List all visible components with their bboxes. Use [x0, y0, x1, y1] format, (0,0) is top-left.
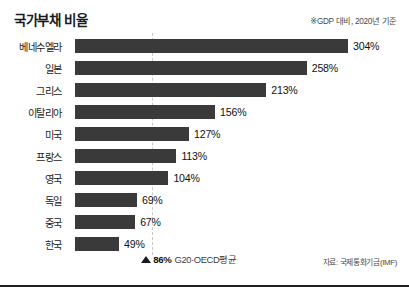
page-title: 국가부채 비율: [14, 9, 88, 29]
bar: [75, 83, 266, 97]
bar-value-label: 156%: [220, 106, 246, 118]
bottom-divider: [0, 285, 409, 287]
bar: [75, 193, 137, 207]
source-note: 자료: 국제통화기금(IMF): [323, 256, 397, 267]
bar-row: 중국67%: [0, 211, 409, 233]
bar-value-label: 104%: [173, 172, 199, 184]
bar-row: 이탈리아156%: [0, 101, 409, 123]
bar: [75, 149, 176, 163]
bar-row: 베네수엘라304%: [0, 35, 409, 57]
bar-category-label: 베네수엘라: [0, 39, 62, 54]
bar-value-label: 49%: [124, 238, 145, 250]
bar-value-label: 258%: [312, 62, 338, 74]
bar-row: 독일69%: [0, 189, 409, 211]
bar-category-label: 일본: [0, 61, 62, 76]
bar-category-label: 프랑스: [0, 149, 62, 164]
bar-category-label: 독일: [0, 193, 62, 208]
bar: [75, 127, 189, 141]
average-marker: 86% G20·OECD평균: [141, 251, 236, 267]
chart-plot-area: 베네수엘라304%일본258%그리스213%이탈리아156%미국127%프랑스1…: [0, 33, 409, 259]
bar-category-label: 이탈리아: [0, 105, 62, 120]
bar-value-label: 304%: [353, 40, 379, 52]
bar-value-label: 127%: [194, 128, 220, 140]
chart-page: 국가부채 비율 ※GDP 대비, 2020년 기준 베네수엘라304%일본258…: [0, 0, 409, 297]
average-value: 86%: [153, 254, 171, 265]
bar-row: 영국104%: [0, 167, 409, 189]
bar-category-label: 그리스: [0, 83, 62, 98]
bar-value-label: 213%: [271, 84, 297, 96]
bar: [75, 105, 215, 119]
bar: [75, 171, 168, 185]
bar: [75, 39, 348, 53]
bar: [75, 215, 135, 229]
bar-category-label: 영국: [0, 171, 62, 186]
bar-category-label: 중국: [0, 215, 62, 230]
bar-category-label: 한국: [0, 237, 62, 252]
average-label: G20·OECD평균: [175, 252, 237, 266]
bar-value-label: 67%: [140, 216, 161, 228]
bar-row: 미국127%: [0, 123, 409, 145]
bar-category-label: 미국: [0, 127, 62, 142]
chart-note: ※GDP 대비, 2020년 기준: [310, 14, 397, 26]
bar: [75, 237, 119, 251]
bar-row: 일본258%: [0, 57, 409, 79]
bar-row: 그리스213%: [0, 79, 409, 101]
triangle-up-icon: [141, 256, 151, 263]
bar-value-label: 69%: [142, 194, 163, 206]
bar-value-label: 113%: [181, 150, 207, 162]
bar: [75, 61, 307, 75]
bar-row: 프랑스113%: [0, 145, 409, 167]
